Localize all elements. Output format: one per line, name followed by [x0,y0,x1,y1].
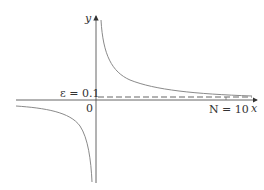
curve-left-branch [16,106,92,182]
x-axis-label: x [251,102,258,115]
y-axis-label: y [84,12,92,25]
origin-label: 0 [86,102,93,115]
graph-canvas: y x 0 ε = 0.1 N = 10 [0,0,264,190]
n-label: N = 10 [209,103,249,116]
epsilon-label: ε = 0.1 [60,87,99,100]
curve-right-branch [101,20,252,96]
